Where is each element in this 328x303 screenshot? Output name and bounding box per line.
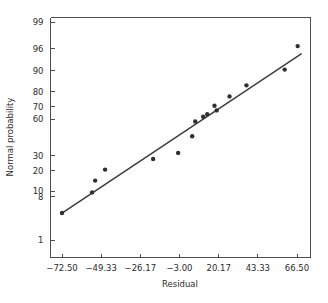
y-tick-label: 96 xyxy=(33,44,44,54)
y-tick-label: 20 xyxy=(33,166,44,176)
data-point xyxy=(205,112,209,116)
x-axis-title: Residual xyxy=(162,279,198,289)
y-tick-label: 30 xyxy=(33,151,44,161)
y-tick-label: 99 xyxy=(33,17,44,27)
y-tick-label: 80 xyxy=(33,87,44,97)
data-point xyxy=(193,119,197,123)
data-point xyxy=(93,178,97,182)
x-tick-label: −26.17 xyxy=(125,263,156,273)
data-point xyxy=(227,94,231,98)
data-point xyxy=(212,104,216,108)
y-tick-label: 60 xyxy=(33,114,44,124)
data-point xyxy=(295,44,299,48)
plot-canvas: 18102030607080909699 −72.50−49.33−26.17−… xyxy=(0,0,328,303)
data-point xyxy=(103,167,107,171)
data-point xyxy=(190,134,194,138)
y-tick-label: 1 xyxy=(38,235,43,245)
x-tick-label: −3.00 xyxy=(166,263,192,273)
y-tick-label: 70 xyxy=(33,102,44,112)
x-tick-label: 20.17 xyxy=(207,263,231,273)
y-tick-label: 90 xyxy=(33,66,44,76)
x-tick-label: −72.50 xyxy=(46,263,77,273)
data-point xyxy=(244,83,248,87)
data-point xyxy=(282,67,286,71)
data-point xyxy=(151,157,155,161)
y-axis-title: Normal probability xyxy=(5,98,15,177)
x-axis-tick-labels: −72.50−49.33−26.17−3.0020.1743.3366.50 xyxy=(46,263,309,273)
y-tick-label: 10 xyxy=(33,186,44,196)
data-point xyxy=(176,151,180,155)
x-tick-label: −49.33 xyxy=(85,263,116,273)
normal-probability-plot-figure: 18102030607080909699 −72.50−49.33−26.17−… xyxy=(0,0,328,303)
data-point xyxy=(90,190,94,194)
data-point xyxy=(60,211,64,215)
x-tick-label: 43.33 xyxy=(246,263,270,273)
data-point xyxy=(201,114,205,118)
data-point xyxy=(214,108,218,112)
x-tick-label: 66.50 xyxy=(285,263,309,273)
